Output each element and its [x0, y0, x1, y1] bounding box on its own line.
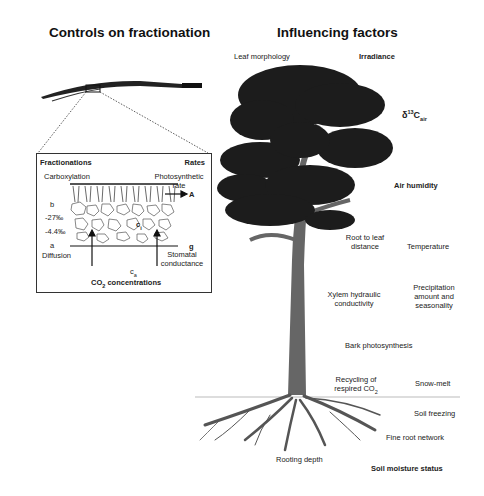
rate-a-label: A	[189, 190, 194, 199]
photosynthetic-rate-label: Photosynthetic rate	[149, 172, 209, 190]
fractionations-header: Fractionations	[40, 158, 92, 167]
leaf-morphology-label: Leaf morphology	[234, 52, 290, 61]
temperature-label: Temperature	[407, 242, 449, 251]
zoom-line-left	[38, 92, 86, 153]
xylem-hydraulic-conductivity-label: Xylem hydraulicconductivity	[323, 290, 385, 308]
irradiance-label: Irradiance	[359, 52, 395, 61]
stomatal-conductance-label: Stomatal conductance	[153, 250, 211, 268]
rates-header: Rates	[185, 158, 205, 167]
b-symbol: b	[50, 200, 54, 209]
root-to-leaf-distance-label: Root to leafdistance	[343, 233, 387, 251]
precipitation-label: Precipitationamount andseasonality	[410, 283, 458, 310]
fine-root-network-label: Fine root network	[386, 433, 444, 442]
b-value: -27‰	[45, 213, 63, 222]
recycling-respired-co2-label: Recycling ofrespired CO2	[331, 375, 381, 397]
leaf-cross-section-inset: Fractionations Rates Carboxylation Photo…	[36, 153, 212, 293]
ci-label: ci	[136, 220, 142, 233]
rooting-depth-label: Rooting depth	[276, 455, 323, 464]
delta-13c-air-label: δ13Cair	[402, 108, 427, 124]
carboxylation-label: Carboxylation	[44, 172, 90, 181]
soil-moisture-status-label: Soil moisture status	[371, 464, 443, 473]
air-humidity-label: Air humidity	[394, 181, 438, 190]
bark-photosynthesis-label: Bark photosynthesis	[345, 341, 413, 350]
diffusion-label: Diffusion	[42, 251, 71, 260]
a-symbol: a	[50, 241, 54, 250]
soil-freezing-label: Soil freezing	[414, 409, 455, 418]
co2-concentrations-label: CO2 concentrations	[91, 278, 161, 291]
leaf-illustration-icon	[41, 81, 202, 101]
a-value: -4.4‰	[45, 227, 65, 236]
zoom-line-right	[100, 92, 208, 153]
snow-melt-label: Snow-melt	[415, 379, 450, 388]
